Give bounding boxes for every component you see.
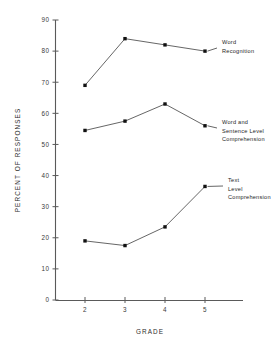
data-point-marker (163, 102, 166, 105)
data-point-marker (163, 43, 166, 46)
annotation-label-line: Word (222, 39, 236, 45)
data-point-marker (83, 84, 86, 87)
series-3 (83, 185, 206, 248)
data-point-marker (123, 244, 126, 247)
chart-figure: 0102030405060708090 2345 GRADE PERCENT O… (0, 0, 277, 343)
annotation-label-line: Comprehension (228, 194, 271, 200)
data-point-marker (203, 185, 206, 188)
annotation-label-line: Comprehension (222, 136, 265, 142)
data-point-marker (83, 129, 86, 132)
annotation-1: WordRecognition (208, 39, 255, 54)
y-tick-label: 90 (41, 16, 49, 23)
annotation-3: TextLevelComprehension (208, 177, 271, 200)
y-tick-label: 0 (45, 296, 49, 303)
annotation-label-line: Text (228, 177, 239, 183)
y-tick-label: 80 (41, 47, 49, 54)
line-chart: 0102030405060708090 2345 GRADE PERCENT O… (0, 0, 277, 343)
x-tick-label: 5 (203, 306, 207, 313)
series-line (85, 39, 205, 86)
x-tick-label: 2 (83, 306, 87, 313)
annotation-label-line: Sentence Level (222, 128, 264, 134)
annotation-label-line: Word and (222, 119, 248, 125)
x-axis-title: GRADE (136, 328, 164, 335)
y-tick-label: 30 (41, 203, 49, 210)
annotation-label-line: Recognition (222, 48, 254, 54)
annotation-2: Word andSentence LevelComprehension (208, 119, 265, 142)
x-tick-label: 4 (163, 306, 167, 313)
data-point-marker (123, 119, 126, 122)
annotation-leader-line (208, 126, 218, 128)
series-line (85, 104, 205, 130)
annotation-label-line: Level (228, 186, 243, 192)
series-line (85, 186, 205, 245)
data-point-marker (203, 49, 206, 52)
y-tick-label: 20 (41, 234, 49, 241)
data-point-marker (163, 225, 166, 228)
y-tick-label: 50 (41, 141, 49, 148)
data-point-marker (123, 37, 126, 40)
annotation-leader-line (208, 48, 218, 51)
x-tick-label: 3 (123, 306, 127, 313)
series-group (83, 37, 206, 247)
series-2 (83, 102, 206, 132)
series-annotations: WordRecognitionWord andSentence LevelCom… (208, 39, 271, 200)
data-point-marker (203, 124, 206, 127)
y-axis-title: PERCENT OF RESPONSES (14, 108, 21, 213)
data-point-marker (83, 239, 86, 242)
y-tick-label: 60 (41, 110, 49, 117)
y-tick-label: 70 (41, 79, 49, 86)
y-tick-label: 10 (41, 265, 49, 272)
series-1 (83, 37, 206, 87)
x-tick-group: 2345 (83, 297, 207, 313)
y-tick-label: 40 (41, 172, 49, 179)
